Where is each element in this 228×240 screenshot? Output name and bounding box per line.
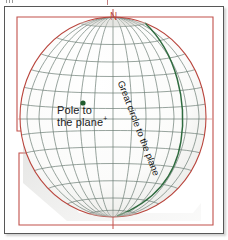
page-mark [6,0,7,3]
pole-label-superscript: + [103,115,107,122]
figure-frame: N Pole to the plane+ Great circle to the… [4,6,224,234]
page-sliver [0,0,228,5]
page-mark [9,0,10,3]
sphere-diagram-svg [5,7,225,235]
figure-root: N Pole to the plane+ Great circle to the… [0,0,228,240]
pole-label-line1: Pole to [57,104,92,116]
pole-label-line2: the plane [57,116,103,128]
north-tick-overflow [107,0,108,5]
north-label: N [110,12,117,23]
page-mark [12,0,13,3]
pole-label: Pole to the plane+ [57,105,107,129]
diagram-canvas: N Pole to the plane+ Great circle to the… [5,7,223,233]
